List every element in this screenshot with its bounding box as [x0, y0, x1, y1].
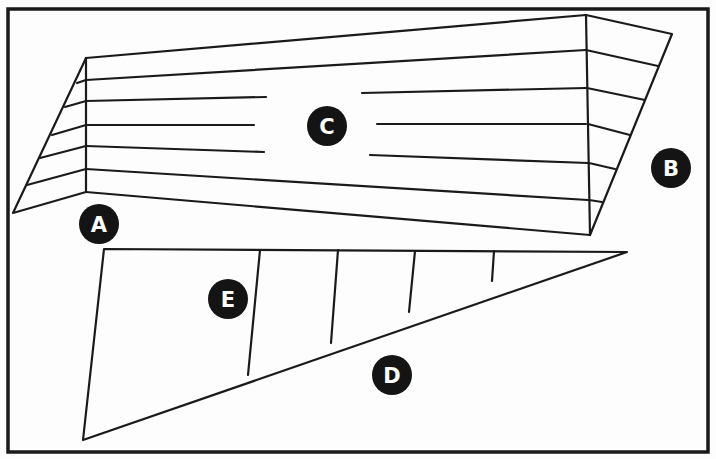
panel-a — [13, 58, 86, 213]
label-c: C — [307, 106, 347, 146]
label-d-text: D — [383, 364, 400, 388]
panel-c-stripe — [86, 97, 266, 101]
triangle-divider — [409, 251, 415, 312]
panel-c-stripe — [86, 169, 588, 200]
diagram-stage: A B C D E — [0, 0, 716, 459]
diagram-svg: A B C D E — [0, 0, 716, 459]
label-e-text: E — [221, 288, 235, 312]
panel-a-stripe — [52, 125, 86, 135]
panel-c-stripe — [86, 50, 586, 80]
panel-c-stripe — [86, 146, 264, 152]
panel-c-stripe — [362, 88, 586, 93]
label-c-text: C — [319, 115, 334, 139]
panel-a-stripe — [40, 146, 86, 158]
label-a-text: A — [91, 213, 108, 237]
panel-b — [586, 15, 672, 235]
panel-b-stripe — [588, 124, 630, 135]
panel-a-stripe — [27, 169, 86, 185]
triangle-outline — [83, 249, 627, 440]
label-d: D — [372, 355, 412, 395]
panel-c-bottom-edge — [86, 192, 590, 235]
panel-b-stripe — [587, 88, 645, 100]
panel-b-stripe — [589, 200, 602, 202]
triangle-divider — [248, 250, 260, 375]
triangle-divider — [331, 250, 338, 343]
triangle-piece — [83, 249, 627, 440]
label-e: E — [208, 279, 248, 319]
panel-a-stripe — [77, 80, 86, 83]
panel-c-stripe — [370, 155, 588, 163]
panel-b-stripe — [586, 50, 658, 66]
panel-a-stripe — [65, 101, 86, 107]
panel-c-top-edge — [86, 15, 586, 58]
triangle-divider — [492, 251, 494, 281]
label-b-text: B — [663, 157, 679, 181]
panel-a-outline — [13, 58, 86, 213]
panel-b-stripe — [589, 163, 615, 169]
label-a: A — [79, 204, 119, 244]
label-b: B — [651, 148, 691, 188]
